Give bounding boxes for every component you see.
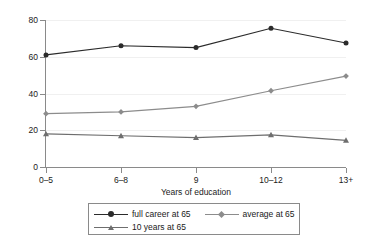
series-line <box>46 134 346 140</box>
x-axis-tick <box>46 168 47 173</box>
y-axis-tick <box>40 130 45 131</box>
gridline <box>46 20 346 21</box>
x-axis-tick-label: 0–5 <box>16 175 76 185</box>
data-point-marker <box>344 40 349 45</box>
y-axis-tick-label: 60 <box>18 53 38 62</box>
legend-key-ten-years <box>94 222 128 233</box>
y-axis-tick-label: 20 <box>18 126 38 135</box>
data-series <box>43 131 349 143</box>
x-axis-tick-label: 6–8 <box>91 175 151 185</box>
legend-label-full-career: full career at 65 <box>132 209 191 220</box>
data-point-marker <box>118 133 124 138</box>
y-axis-tick-label: 80 <box>18 16 38 25</box>
data-point-marker <box>43 131 49 136</box>
y-axis-tick-label: 40 <box>18 90 38 99</box>
x-axis-tick-label: 10–12 <box>241 175 301 185</box>
legend-key-marker <box>218 211 225 218</box>
gridline <box>46 130 346 131</box>
legend-entry-average: average at 65 <box>205 207 295 222</box>
y-axis-tick <box>40 167 45 168</box>
data-point-marker <box>343 73 349 79</box>
y-axis-line <box>45 20 46 168</box>
y-axis-tick <box>40 94 45 95</box>
data-point-marker <box>43 111 49 117</box>
legend: full career at 65 average at 65 10 years… <box>88 203 300 235</box>
y-axis-tick <box>40 57 45 58</box>
data-point-marker <box>268 132 274 137</box>
legend-label-ten-years: 10 years at 65 <box>132 222 186 233</box>
legend-label-average: average at 65 <box>243 209 295 220</box>
legend-key-marker <box>108 211 114 217</box>
data-point-marker <box>193 103 199 109</box>
x-axis-tick <box>196 168 197 173</box>
data-point-marker <box>194 45 199 50</box>
gridline <box>46 57 346 58</box>
data-point-marker <box>193 135 199 140</box>
gridline <box>46 94 346 95</box>
x-axis-tick-label: 9 <box>166 175 226 185</box>
data-point-marker <box>118 109 124 115</box>
y-axis-tick-label: 0 <box>18 163 38 172</box>
x-axis-tick <box>346 168 347 173</box>
legend-key-average <box>205 209 239 220</box>
x-axis-tick <box>271 168 272 173</box>
data-point-marker <box>119 43 124 48</box>
series-line <box>46 28 346 55</box>
data-point-marker <box>343 137 349 142</box>
y-axis-tick <box>40 20 45 21</box>
data-series <box>44 26 349 58</box>
data-point-marker <box>269 26 274 31</box>
x-axis-tick-label: 13+ <box>316 175 369 185</box>
data-point-marker <box>268 88 274 94</box>
legend-entry-ten-years: 10 years at 65 <box>94 220 186 235</box>
chart-container: % of males fund at 65 020406080 0–56–891… <box>0 0 369 247</box>
x-axis-title: Years of education <box>46 187 346 197</box>
legend-key-full-career <box>94 209 128 220</box>
x-axis-tick <box>121 168 122 173</box>
legend-key-marker <box>108 225 114 230</box>
